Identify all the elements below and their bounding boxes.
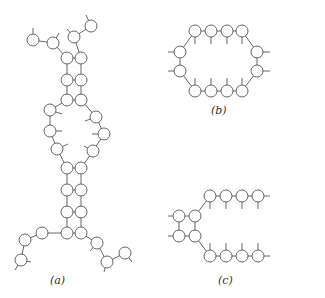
panel-a-bonds	[15, 15, 132, 272]
panel-c-bonds	[168, 196, 270, 256]
panel-c-label: (c)	[218, 274, 233, 287]
panel-b-label: (b)	[211, 104, 227, 117]
diagram-canvas	[0, 0, 325, 298]
panel-b-bonds	[168, 31, 270, 91]
panel-a-label: (a)	[50, 274, 65, 287]
nodes	[15, 20, 264, 268]
